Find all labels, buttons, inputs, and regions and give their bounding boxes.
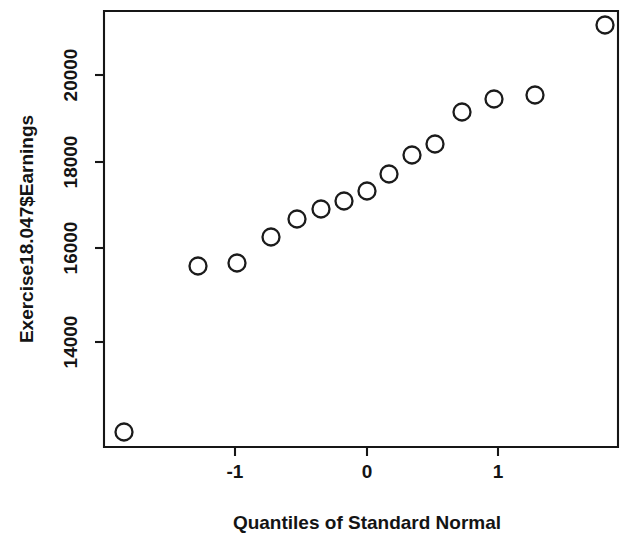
qq-plot-screenshot: 14000160001800020000 -101 Exercise18.047… [0,0,628,539]
qq-plot-figure: 14000160001800020000 -101 Exercise18.047… [0,0,628,539]
y-tick-label: 18000 [60,136,81,189]
data-point [427,136,444,153]
x-axis-ticks [235,447,498,456]
y-axis-title: Exercise18.047$Earnings [16,115,37,343]
scatter-data-points [116,17,614,441]
y-tick-label: 16000 [60,222,81,275]
data-point [454,104,471,121]
y-tick-label: 14000 [60,316,81,369]
data-point [486,91,503,108]
x-axis-tick-labels: -101 [227,461,504,482]
data-point [381,166,398,183]
x-tick-label: -1 [227,461,244,482]
data-point [597,17,614,34]
data-point [527,87,544,104]
data-point [263,229,280,246]
data-point [229,255,246,272]
data-point [313,201,330,218]
data-point [359,183,376,200]
data-point [190,258,207,275]
data-point [116,424,133,441]
x-axis-title: Quantiles of Standard Normal [233,512,501,533]
data-point [336,193,353,210]
x-tick-label: 1 [493,461,504,482]
data-point [404,147,421,164]
data-point [289,211,306,228]
plot-box-outline [104,11,618,447]
x-tick-label: 0 [362,461,373,482]
plot-frame [104,11,618,447]
y-axis-tick-labels: 14000160001800020000 [60,49,81,369]
y-axis-ticks [95,75,104,342]
y-tick-label: 20000 [60,49,81,102]
